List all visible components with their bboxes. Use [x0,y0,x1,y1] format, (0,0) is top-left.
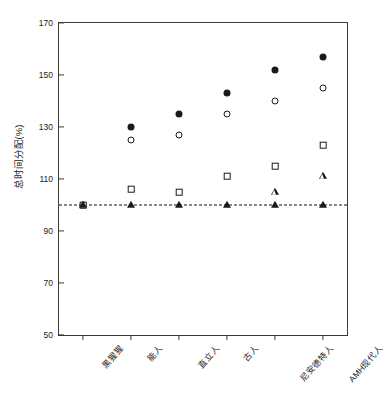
data-point-open-triangle [319,172,327,179]
data-point-open-square [272,163,279,170]
data-point-open-circle [224,111,231,118]
x-tick-mark [130,335,131,340]
y-tick-mark [59,126,64,127]
data-point-open-triangle [271,188,279,195]
x-tick-mark [274,335,275,340]
data-point-filled-circle [176,111,183,118]
x-axis-label-4: 尼安德特人 [297,342,336,383]
y-tick-label: 150 [39,70,59,80]
y-tick-label: 130 [39,122,59,132]
y-axis-title: 总时间分配(%) [11,77,25,237]
data-point-open-circle [176,131,183,138]
data-point-open-square [224,173,231,180]
data-point-filled-circle [320,53,327,60]
data-point-filled-triangle [319,201,327,208]
x-axis-label-1: 能人 [144,342,165,363]
data-point-open-circle [272,98,279,105]
data-point-filled-triangle [79,201,87,208]
y-tick-mark [59,178,64,179]
data-point-filled-triangle [271,201,279,208]
y-tick-label: 70 [44,278,59,288]
data-point-open-circle [128,137,135,144]
data-point-filled-triangle [223,201,231,208]
data-point-open-square [320,142,327,149]
data-point-open-square [176,189,183,196]
data-point-filled-circle [224,90,231,97]
y-tick-label: 110 [39,174,59,184]
y-tick-mark [59,74,64,75]
reference-line-100 [59,205,347,206]
data-point-open-square [128,186,135,193]
data-point-filled-circle [272,66,279,73]
x-tick-mark [226,335,227,340]
x-axis-label-3: 古人 [240,342,261,363]
y-tick-mark [59,282,64,283]
x-tick-mark [322,335,323,340]
y-tick-mark [59,230,64,231]
data-point-filled-circle [128,124,135,131]
x-tick-mark [82,335,83,340]
y-tick-label: 50 [44,330,59,340]
data-point-open-circle [320,85,327,92]
x-tick-mark [178,335,179,340]
y-tick-mark [59,22,64,23]
y-tick-label: 170 [39,18,59,28]
x-axis-label-2: 直立人 [195,342,222,370]
y-tick-mark [59,334,64,335]
data-point-filled-triangle [127,201,135,208]
x-axis-label-5: AMH现代人 [345,342,385,384]
x-axis-label-0: 黑猩猩 [99,342,126,370]
y-tick-label: 90 [44,226,59,236]
plot-area: 507090110130150170 [58,22,348,336]
data-point-filled-triangle [175,201,183,208]
